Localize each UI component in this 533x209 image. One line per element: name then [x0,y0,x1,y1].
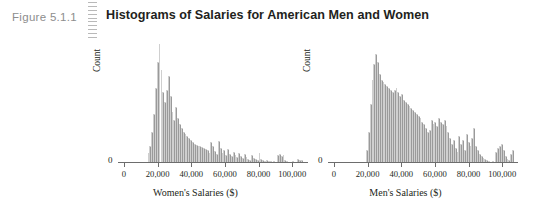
x-axis-label-men: Men's Salaries ($) [288,187,523,198]
x-axis-label-women: Women's Salaries ($) [78,187,313,198]
x-axis-tick-label: 100,000 [488,169,516,179]
x-axis-tick [259,163,260,167]
x-axis-tick-label: 40,000 [179,169,203,179]
figure-number-label: Figure 5.1.1 [12,11,77,23]
x-axis-tick [469,163,470,167]
histogram-women: Count 0 020,00040,00060,00080,000100,000… [78,44,313,209]
bar-series-women [124,44,304,162]
figure-header: Figure 5.1.1 Histograms of Salaries for … [0,0,533,40]
y-axis-zero-label-men: 0 [318,155,323,165]
dashed-vertical-rule-icon [88,2,97,38]
x-axis-tick-label: 80,000 [247,169,271,179]
x-axis-tick [124,163,125,167]
x-axis-tick [435,163,436,167]
x-axis-tick [191,163,192,167]
histogram-bar [512,150,514,162]
y-axis-label-women: Count [92,49,102,72]
x-axis-tick-label: 60,000 [423,169,447,179]
figure-title: Histograms of Salaries for American Men … [106,8,429,22]
y-axis-label-men: Count [302,49,312,72]
x-axis-tick-label: 20,000 [146,169,170,179]
x-axis-tick-label: 80,000 [457,169,481,179]
plot-area-women [124,44,304,162]
x-axis-tick-label: 0 [122,169,126,179]
x-axis-tick [401,163,402,167]
x-axis-tick [368,163,369,167]
x-axis-line-men [328,162,518,163]
x-axis-tick-label: 20,000 [356,169,380,179]
x-axis-tick [225,163,226,167]
bar-series-men [334,44,514,162]
x-axis-tick-label: 40,000 [389,169,413,179]
x-axis-tick-label: 60,000 [213,169,237,179]
histogram-men: Count 0 020,00040,00060,00080,000100,000… [288,44,523,209]
x-axis-line-women [118,162,308,163]
x-axis-tick [158,163,159,167]
plot-area-men [334,44,514,162]
x-axis-tick [502,163,503,167]
y-axis-zero-label-women: 0 [108,155,113,165]
x-axis-tick [334,163,335,167]
x-axis-tick-label: 0 [332,169,336,179]
